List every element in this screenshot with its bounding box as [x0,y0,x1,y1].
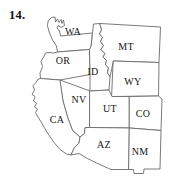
state-label-wa: WA [65,26,82,37]
state-label-mt: MT [118,41,134,52]
state-label-nm: NM [132,146,149,157]
figure-root: 14. WA OR ID MT WY NV UT CO CA AZ NM [0,0,173,183]
western-us-states-map: WA OR ID MT WY NV UT CO CA AZ NM [0,0,173,183]
state-label-ut: UT [103,103,117,114]
state-label-nv: NV [71,94,87,105]
state-label-id: ID [87,66,98,77]
state-label-co: CO [136,108,151,119]
state-label-az: AZ [97,139,111,150]
state-label-or: OR [56,55,71,66]
state-label-wy: WY [124,76,141,87]
state-label-ca: CA [50,114,65,125]
